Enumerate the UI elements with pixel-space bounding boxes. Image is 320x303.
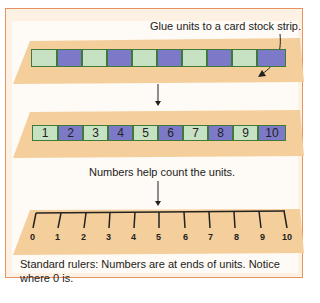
unit-5: 5 — [133, 125, 158, 141]
unit-7: 7 — [183, 125, 208, 141]
ruler-label-9: 9 — [260, 232, 265, 242]
unit-1: 1 — [32, 125, 58, 141]
ruler-label-7: 7 — [208, 232, 213, 242]
unit-purple — [157, 49, 182, 67]
ruler-label-4: 4 — [131, 232, 136, 242]
unit-strip-blank — [31, 49, 286, 67]
unit-purple — [57, 49, 82, 67]
unit-3: 3 — [83, 125, 108, 141]
unit-green — [232, 49, 257, 67]
ruler-label-5: 5 — [156, 232, 161, 242]
unit-10: 10 — [258, 125, 286, 141]
unit-green — [132, 49, 157, 67]
unit-8: 8 — [208, 125, 233, 141]
unit-4: 4 — [108, 125, 133, 141]
unit-green — [182, 49, 207, 67]
caption-standard-rulers-2: where 0 is. — [20, 272, 73, 284]
ruler-label-3: 3 — [106, 232, 111, 242]
unit-6: 6 — [158, 125, 183, 141]
unit-purple — [107, 49, 132, 67]
ruler-label-2: 2 — [81, 232, 86, 242]
ruler-label-10: 10 — [282, 232, 292, 242]
unit-9: 9 — [233, 125, 258, 141]
caption-numbers-help: Numbers help count the units. — [89, 166, 235, 178]
unit-strip-numbered: 1 2 3 4 5 6 7 8 9 10 — [32, 125, 286, 141]
unit-green — [31, 49, 57, 67]
ruler-label-8: 8 — [234, 232, 239, 242]
ruler-label-6: 6 — [183, 232, 188, 242]
caption-standard-rulers-1: Standard rulers: Numbers are at ends of … — [20, 258, 280, 270]
ruler-label-0: 0 — [30, 232, 35, 242]
unit-green — [82, 49, 107, 67]
unit-purple — [257, 49, 286, 67]
unit-purple — [207, 49, 232, 67]
ruler-label-1: 1 — [55, 232, 60, 242]
unit-2: 2 — [58, 125, 83, 141]
